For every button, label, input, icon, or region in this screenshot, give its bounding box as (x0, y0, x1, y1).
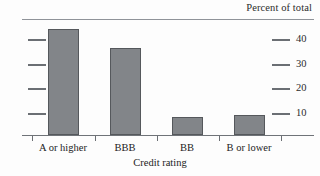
y-tick-label: 30 (296, 59, 307, 69)
bar (234, 115, 265, 135)
x-tick-mark (157, 136, 158, 141)
bar (48, 29, 79, 135)
category-label: BBB (114, 142, 135, 154)
x-tick-mark (32, 136, 33, 141)
x-axis-baseline (22, 135, 314, 136)
y-tick-mark-left (28, 64, 46, 66)
y-tick-mark-left (28, 88, 46, 90)
category-label: A or higher (39, 142, 87, 154)
x-axis-title: Credit rating (133, 157, 186, 168)
x-tick-mark (95, 136, 96, 141)
x-tick-mark (281, 136, 282, 141)
category-label: B or lower (227, 142, 272, 154)
y-tick-mark-right (272, 64, 290, 66)
x-tick-mark (219, 136, 220, 141)
y-tick-mark-right (272, 39, 290, 41)
y-tick-mark-left (28, 113, 46, 115)
bar (172, 117, 203, 135)
y-tick-mark-right (272, 113, 290, 115)
category-label: BB (180, 142, 194, 154)
y-tick-mark-left (28, 39, 46, 41)
bar (110, 48, 141, 135)
bar-chart-figure: Percent of total 40302010 A or higherBBB… (0, 0, 320, 176)
y-tick-mark-right (272, 88, 290, 90)
y-tick-label: 40 (296, 34, 307, 44)
y-tick-label: 10 (296, 108, 307, 118)
plot-area: 40302010 A or higherBBBBBB or lower Cred… (0, 0, 320, 176)
y-tick-label: 20 (296, 83, 307, 93)
